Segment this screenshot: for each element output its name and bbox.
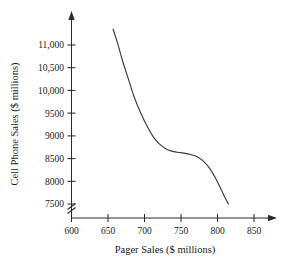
x-axis-arrow-icon [268,215,277,221]
x-axis-title: Pager Sales ($ millions) [115,244,216,256]
y-tick-label-10500: 10,500 [38,63,64,73]
chart-figure: 7500 8000 8500 9000 9500 10,000 10,500 1… [0,0,290,267]
scatter-line-plot: 7500 8000 8500 9000 9500 10,000 10,500 1… [0,0,290,267]
x-tick-label-600: 600 [64,226,79,236]
y-axis-title: Cell Phone Sales ($ millions) [9,62,21,186]
y-tick-label-7500: 7500 [45,199,64,209]
y-tick-label-8000: 8000 [45,177,64,187]
y-tick-label-11000: 11,000 [38,40,64,50]
x-tick-label-650: 650 [101,226,116,236]
data-curve [113,29,228,204]
x-tick-label-800: 800 [210,226,225,236]
y-tick-label-9500: 9500 [45,109,64,119]
y-tick-label-9000: 9000 [45,131,64,141]
x-tick-label-750: 750 [174,226,189,236]
x-tick-label-700: 700 [137,226,152,236]
y-axis-arrow-icon [68,11,74,20]
y-tick-label-8500: 8500 [45,154,64,164]
x-tick-label-850: 850 [247,226,262,236]
y-tick-label-10000: 10,000 [38,86,64,96]
